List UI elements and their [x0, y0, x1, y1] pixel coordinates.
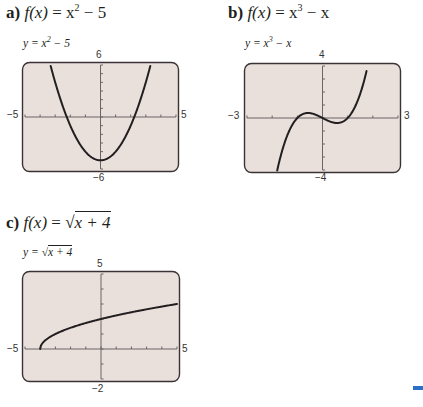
panel-c-xmin-label: −5: [7, 343, 18, 354]
panel-b-heading: b) f(x) = x3 − x: [228, 2, 329, 23]
panel-c-xmax-label: 5: [182, 343, 188, 354]
panel-c-equation-label: y = √x + 4: [23, 246, 72, 258]
panel-c-letter: c): [6, 213, 19, 232]
panel-b-equation-label: y = x3 − x: [245, 35, 291, 49]
panel-a-ymax-label: 6: [96, 49, 102, 60]
panel-b-xmax-label: 3: [404, 110, 410, 121]
panel-a-xmin-label: −5: [7, 109, 18, 120]
panel-a-heading: a) f(x) = x2 − 5: [6, 2, 106, 23]
panel-c-fx: f(x): [23, 213, 47, 232]
panel-b-ymax-label: 4: [319, 49, 325, 60]
panel-c-ymax-label: 5: [97, 258, 103, 269]
panel-c-radical: √x + 4: [65, 213, 110, 233]
panel-c-eq: =: [47, 213, 65, 232]
panel-a-ymin-label: −6: [93, 172, 104, 183]
panel-b-ymin-label: −4: [315, 172, 326, 183]
panel-b-fx: f(x): [247, 3, 271, 22]
page-accent-bar: [413, 386, 423, 390]
panel-a-eq: = x2 − 5: [48, 3, 106, 22]
panel-b-eq: = x3 − x: [271, 3, 329, 22]
panel-c-ymin-label: −2: [92, 383, 103, 394]
panel-b-letter: b): [228, 3, 243, 22]
panel-b-xmin-label: −3: [228, 110, 239, 121]
panel-a-equation-label: y = x2 − 5: [23, 35, 70, 49]
panel-a-fx: f(x): [24, 3, 48, 22]
panel-c-graph: [22, 271, 180, 382]
panel-a-xmax-label: 5: [181, 109, 187, 120]
panel-b-graph: [244, 63, 401, 173]
panel-c-heading: c) f(x) = √x + 4: [6, 213, 111, 233]
panel-a-letter: a): [6, 3, 20, 22]
panel-a-graph: [22, 62, 179, 172]
